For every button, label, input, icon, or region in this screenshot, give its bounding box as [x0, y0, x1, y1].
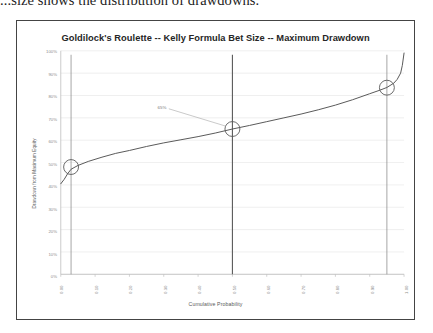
chart-plot-canvas: [17, 21, 414, 319]
x-axis-tick: 0.90: [369, 286, 374, 300]
x-axis-tick: 0.50: [231, 286, 236, 300]
document-text-line: ...size shows the distribution of drawdo…: [0, 0, 433, 9]
y-axis-tick: 70%: [27, 116, 57, 121]
y-axis-tick: 80%: [27, 94, 57, 99]
x-axis-tick: 0.40: [197, 286, 202, 300]
document-text: ...size shows the distribution of drawdo…: [0, 0, 259, 8]
data-point-markers: [64, 80, 395, 174]
x-axis-tick: 0.70: [300, 286, 305, 300]
y-axis-title: Drawdown from Maximum Equity: [32, 131, 37, 217]
y-axis-tick: 90%: [27, 71, 57, 76]
chart-figure: Goldilock's Roulette -- Kelly Formula Be…: [16, 20, 415, 320]
x-axis-tick: 1.00: [404, 286, 409, 300]
x-axis-tick: 0.00: [59, 286, 64, 300]
median-callout: 65%: [158, 105, 167, 110]
x-axis-tick: 0.20: [128, 286, 133, 300]
vertical-reference-lines: [71, 55, 387, 275]
y-axis-tick: 100%: [27, 49, 57, 54]
x-axis-tick: 0.30: [162, 286, 167, 300]
annotation-leader-line: [169, 109, 226, 126]
x-axis-title: Cumulative Probability: [17, 301, 414, 307]
y-axis-tick: 20%: [27, 229, 57, 234]
y-axis-tick: 10%: [27, 251, 57, 256]
x-axis-tick: 0.10: [93, 286, 98, 300]
x-axis-tick: 0.80: [335, 286, 340, 300]
y-axis-tick: 0%: [27, 274, 57, 279]
x-axis-tick: 0.60: [266, 286, 271, 300]
